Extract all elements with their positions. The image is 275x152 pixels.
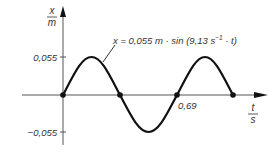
equation-label: x = 0,055 m · sin (9,13 s−1 · t) xyxy=(112,34,237,46)
x-label-den: s xyxy=(251,114,256,125)
sine-chart: x m t s 0,055 −0,055 0,69 x = 0,055 m · … xyxy=(0,0,275,152)
equation-leader-line xyxy=(103,45,115,62)
y-label-num: x xyxy=(49,5,56,16)
zero-point xyxy=(60,92,66,98)
x-label-num: t xyxy=(252,102,256,113)
ytick-neg-label: −0,055 xyxy=(28,127,58,138)
zero-point xyxy=(117,92,123,98)
y-label-den: m xyxy=(48,17,56,28)
xtick-label: 0,69 xyxy=(178,100,197,111)
y-axis-arrow-icon xyxy=(60,6,66,17)
ytick-pos-label: 0,055 xyxy=(33,52,57,63)
zero-point xyxy=(230,92,236,98)
zero-point xyxy=(174,92,180,98)
x-axis-arrow-icon xyxy=(254,92,268,98)
